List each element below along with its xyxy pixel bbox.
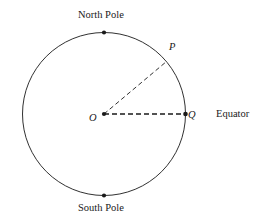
- center-point-o: [102, 112, 106, 116]
- label-equator-point-q: Q: [188, 110, 196, 121]
- label-center-point-o: O: [89, 113, 97, 124]
- north-pole-point: [102, 30, 106, 34]
- south-pole-point: [102, 193, 106, 197]
- label-south-pole: South Pole: [78, 203, 124, 214]
- radius-line-op: [104, 62, 167, 115]
- label-surface-point-p: P: [169, 42, 175, 53]
- label-equator: Equator: [216, 109, 249, 120]
- label-north-pole: North Pole: [78, 10, 124, 21]
- earth-cross-section-diagram: North Pole South Pole Equator O Q P: [0, 0, 277, 222]
